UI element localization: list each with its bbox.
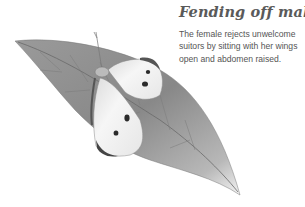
caption-body: The female rejects unwelcome suitors by …: [179, 28, 303, 65]
caption: Fending off males The female rejects unw…: [179, 2, 305, 65]
caption-title: Fending off males: [179, 2, 305, 22]
